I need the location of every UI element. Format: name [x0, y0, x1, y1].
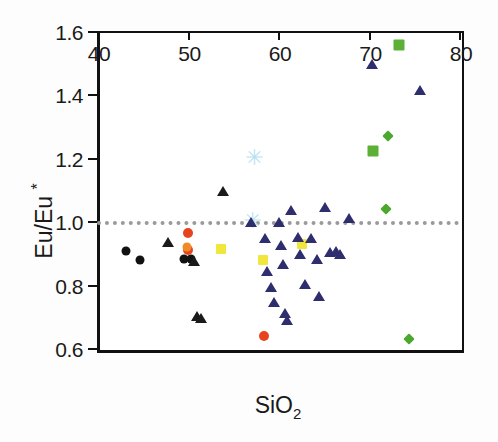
- data-point-navy-triangles: [245, 217, 257, 227]
- data-point-navy-triangles: [299, 279, 311, 289]
- data-point-black-triangles: [162, 237, 174, 247]
- data-point-navy-triangles: [277, 259, 289, 269]
- data-point-navy-triangles: [311, 254, 323, 264]
- data-point-navy-triangles: [268, 297, 280, 307]
- data-point-navy-triangles: [259, 233, 271, 243]
- data-point-navy-triangles: [319, 202, 331, 212]
- data-point-navy-triangles: [285, 205, 297, 215]
- data-point-light-blue-markers: ✳: [245, 149, 263, 167]
- y-axis-title: Eu/Eu *: [29, 183, 58, 258]
- data-point-navy-triangles: [334, 249, 346, 259]
- scatter-plot-figure: Eu/Eu * SiO2 0.60.81.01.21.41.6 40506070…: [0, 0, 498, 442]
- data-point-navy-triangles: [281, 315, 293, 325]
- data-point-navy-triangles: [261, 266, 273, 276]
- data-point-navy-triangles: [366, 59, 378, 69]
- data-point-green-diamonds: [383, 130, 394, 141]
- data-point-black-triangles: [195, 313, 207, 323]
- data-point-navy-triangles: [292, 232, 304, 242]
- x-axis-title: SiO2: [255, 392, 302, 422]
- y-tick-label: 1.4: [55, 84, 83, 108]
- data-point-black-triangles: [188, 256, 200, 266]
- data-point-yellow-squares: [216, 244, 226, 254]
- y-tick-mark: 1.4: [88, 94, 97, 96]
- x-tick-label: 80: [450, 42, 472, 66]
- x-tick-mark: 70: [369, 31, 371, 40]
- x-tick-mark: 40: [97, 31, 99, 40]
- y-tick-mark: 1.0: [88, 221, 97, 223]
- data-point-red-circles: [259, 331, 269, 341]
- x-tick-mark: 80: [459, 31, 461, 40]
- data-point-green-diamonds: [404, 334, 415, 345]
- y-tick-label: 1.0: [55, 211, 83, 235]
- y-tick-label: 0.6: [55, 338, 83, 362]
- data-point-black-circles: [135, 255, 144, 264]
- data-point-black-triangles: [217, 186, 229, 196]
- y-tick-mark: 0.6: [88, 348, 97, 350]
- data-point-green-diamonds: [380, 203, 391, 214]
- data-point-navy-triangles: [313, 291, 325, 301]
- plot-area: 0.60.81.01.21.41.6 4050607080 ✳✳: [97, 31, 459, 348]
- data-point-navy-triangles: [294, 249, 306, 259]
- data-point-orange-circles: [182, 243, 191, 252]
- data-point-green-squares: [394, 39, 405, 50]
- data-point-green-squares: [368, 145, 379, 156]
- x-tick-mark: 50: [188, 31, 190, 40]
- x-tick-label: 60: [269, 42, 291, 66]
- y-tick-mark: 1.6: [88, 31, 97, 33]
- data-point-navy-triangles: [273, 217, 285, 227]
- y-tick-label: 1.6: [55, 21, 83, 45]
- y-tick-mark: 0.8: [88, 285, 97, 287]
- y-tick-label: 0.8: [55, 275, 83, 299]
- y-tick-label: 1.2: [55, 148, 83, 172]
- data-point-navy-triangles: [305, 233, 317, 243]
- data-point-navy-triangles: [343, 213, 355, 223]
- x-tick-label: 50: [178, 42, 200, 66]
- data-point-red-circles: [183, 228, 193, 238]
- data-point-navy-triangles: [414, 85, 426, 95]
- data-point-yellow-squares: [258, 255, 268, 265]
- x-tick-label: 40: [88, 42, 110, 66]
- x-tick-mark: 60: [278, 31, 280, 40]
- y-tick-mark: 1.2: [88, 158, 97, 160]
- data-point-navy-triangles: [275, 240, 287, 250]
- data-point-black-circles: [121, 247, 130, 256]
- data-point-navy-triangles: [265, 282, 277, 292]
